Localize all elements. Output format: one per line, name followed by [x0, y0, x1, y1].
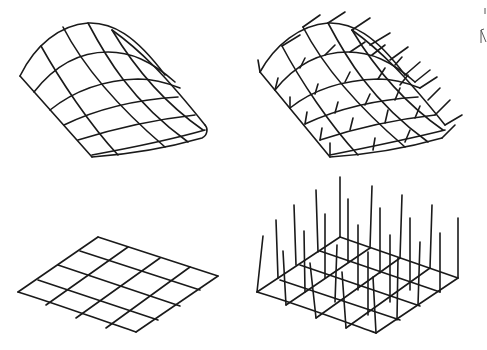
- figure-canvas: [0, 0, 487, 350]
- stray-marks: [481, 8, 486, 43]
- panel-top-right-curved-mesh-normals: [258, 12, 462, 157]
- panel-bottom-right-grid-vectors: [257, 177, 458, 333]
- panel-top-left-curved-mesh: [20, 23, 207, 157]
- panel-bottom-left-flat-grid: [18, 237, 218, 332]
